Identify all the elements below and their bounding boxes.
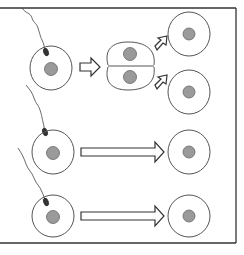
nucleus bbox=[183, 210, 195, 222]
nucleus bbox=[183, 86, 195, 98]
nucleus bbox=[124, 71, 137, 84]
row-1 bbox=[22, 8, 210, 114]
arrow-icon bbox=[155, 75, 167, 89]
sperm-tail bbox=[18, 148, 45, 200]
nucleus bbox=[47, 147, 60, 160]
nucleus bbox=[183, 146, 195, 158]
sperm-head bbox=[42, 197, 49, 206]
arrow-icon bbox=[80, 58, 100, 76]
nucleus bbox=[47, 211, 60, 224]
row-3 bbox=[18, 148, 210, 237]
sperm-head bbox=[42, 47, 49, 56]
sperm-tail bbox=[26, 85, 45, 130]
nucleus bbox=[45, 63, 58, 76]
arrow-icon bbox=[81, 206, 164, 226]
sperm-tail bbox=[22, 8, 45, 50]
nucleus bbox=[183, 28, 195, 40]
arrow-icon bbox=[81, 142, 164, 162]
row-2 bbox=[26, 85, 210, 174]
nucleus bbox=[124, 48, 137, 61]
arrow-icon bbox=[155, 36, 167, 50]
fertilization-diagram bbox=[0, 0, 244, 255]
two-cell-embryo bbox=[107, 42, 154, 90]
